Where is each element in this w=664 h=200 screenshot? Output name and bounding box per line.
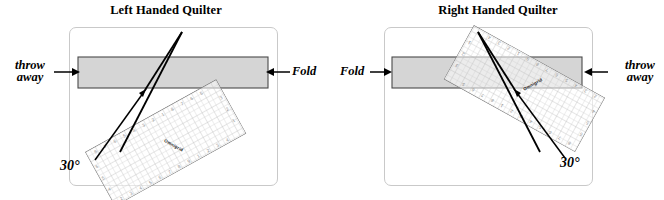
fold-arrow-left — [266, 68, 290, 76]
throw-away-arrow-left — [54, 68, 80, 76]
throw-away-label-left-line2: away — [6, 71, 54, 83]
throw-away-label-right-line2: away — [616, 71, 664, 83]
fold-label-right: Fold — [340, 65, 364, 77]
quilting-ruler-right: 87 65 43 21 87 65 23 45 67 89 12 34 654 … — [444, 25, 605, 152]
fabric-strip-left — [78, 57, 268, 88]
illustration-right: 87 65 43 21 87 65 23 45 67 89 12 34 654 … — [332, 0, 664, 200]
fold-arrow-right — [370, 68, 392, 76]
throw-away-arrow-right — [584, 68, 608, 76]
angle-label-left: 30° — [60, 158, 80, 174]
throw-away-label-left: throw away — [6, 59, 54, 83]
panel-right-handed-quilter: Right Handed Quilter — [332, 0, 664, 200]
illustration-left: 87 65 43 21 87 65 23 45 67 89 12 34 654 … — [0, 0, 332, 200]
throw-away-label-right: throw away — [616, 59, 664, 83]
panel-left-handed-quilter: Left Handed Quilter — [0, 0, 332, 200]
quilting-angle-diagram: Left Handed Quilter — [0, 0, 664, 200]
angle-arrowhead-left — [139, 89, 146, 97]
angle-label-right: 30° — [560, 155, 580, 171]
fold-label-left: Fold — [292, 65, 316, 77]
